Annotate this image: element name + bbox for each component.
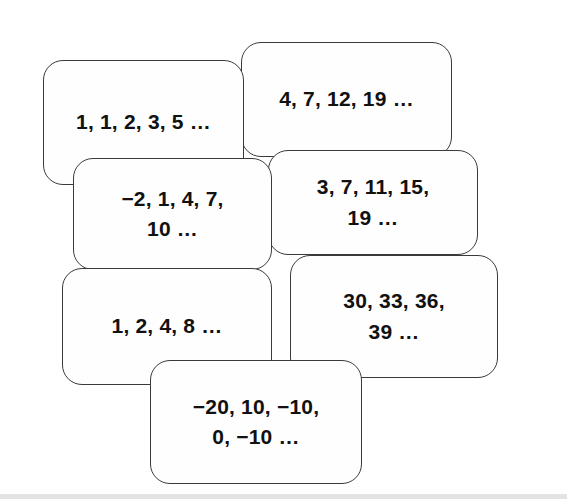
sequence-card-3-7-11-15-19[interactable]: 3, 7, 11, 15, 19 … — [268, 150, 478, 255]
sequence-card-label: 1, 1, 2, 3, 5 … — [54, 107, 233, 137]
sequence-card-4-7-12-19[interactable]: 4, 7, 12, 19 … — [241, 42, 452, 157]
sequence-card-label: 1, 2, 4, 8 … — [73, 311, 261, 341]
sequence-card-label: −20, 10, −10, 0, −10 … — [161, 392, 351, 453]
sequence-card-neg2-1-4-7-10[interactable]: −2, 1, 4, 7, 10 … — [73, 158, 272, 270]
bottom-divider — [0, 494, 567, 499]
sequence-card-label: −2, 1, 4, 7, 10 … — [84, 184, 261, 245]
sequence-card-label: 3, 7, 11, 15, 19 … — [279, 172, 467, 233]
sequence-card-label: 30, 33, 36, 39 … — [301, 286, 487, 347]
sequence-card-label: 4, 7, 12, 19 … — [252, 84, 441, 114]
card-canvas: 1, 1, 2, 3, 5 … 4, 7, 12, 19 … −2, 1, 4,… — [0, 0, 567, 502]
sequence-card-neg20-10-neg10-0-neg10[interactable]: −20, 10, −10, 0, −10 … — [150, 360, 362, 484]
